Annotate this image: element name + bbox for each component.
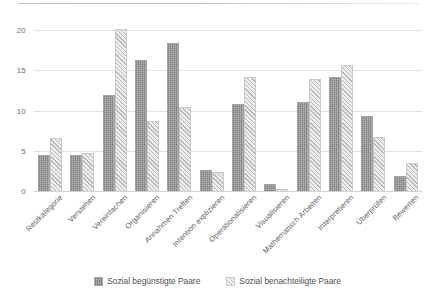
bar-group (34, 30, 66, 191)
bar-group (228, 30, 260, 191)
bar[interactable] (264, 184, 276, 191)
bar[interactable] (70, 155, 82, 191)
x-axis-category-label: Bewerten (391, 193, 421, 223)
scan-artifact-line (18, 3, 420, 4)
y-axis-tick-label: 10 (17, 106, 26, 115)
y-axis-tick-labels: 05101520 (0, 30, 30, 191)
bar-group (99, 30, 131, 191)
bar[interactable] (361, 116, 373, 191)
bar-group (66, 30, 98, 191)
bar[interactable] (244, 77, 256, 191)
y-axis-tick-label: 20 (17, 26, 26, 35)
x-axis-category-label: Verstehen (66, 193, 97, 224)
legend-item-series-1[interactable]: Sozial begünstigte Paare (94, 276, 200, 286)
bar-group (390, 30, 422, 191)
y-axis-tick-label: 0 (21, 187, 26, 196)
bar-group (293, 30, 325, 191)
x-axis-category-labels: RestkategorieVerstehenVereinfachenOrgani… (34, 191, 422, 261)
bar[interactable] (309, 79, 321, 191)
bar[interactable] (406, 163, 418, 191)
bar[interactable] (103, 95, 115, 191)
bar[interactable] (38, 155, 50, 191)
legend-item-label: Sozial begünstigte Paare (107, 276, 200, 286)
bar-group (325, 30, 357, 191)
bar[interactable] (394, 176, 406, 191)
bar[interactable] (341, 65, 353, 191)
bar[interactable] (135, 60, 147, 191)
bar[interactable] (373, 137, 385, 191)
chart-legend: Sozial begünstigte Paare Sozial benachte… (0, 276, 435, 286)
bar-group (163, 30, 195, 191)
bar-group (260, 30, 292, 191)
y-axis-tick-label: 15 (17, 66, 26, 75)
bar-group (357, 30, 389, 191)
bar-group (196, 30, 228, 191)
legend-swatch-icon (94, 277, 103, 286)
bar[interactable] (82, 153, 94, 191)
plot-area (34, 30, 422, 191)
bar[interactable] (115, 29, 127, 191)
bar[interactable] (179, 107, 191, 191)
bar-chart: 05101520 RestkategorieVerstehenVereinfac… (0, 0, 435, 300)
bar[interactable] (297, 102, 309, 191)
x-axis-category-label: Mathematisch Arbeiten (261, 193, 323, 255)
bar[interactable] (329, 77, 341, 191)
bar[interactable] (147, 121, 159, 191)
bar-groups (34, 30, 422, 191)
bar[interactable] (212, 172, 224, 191)
y-axis-tick-label: 5 (21, 146, 26, 155)
x-axis-category-label: Überprüfen (354, 193, 388, 227)
bar[interactable] (232, 104, 244, 191)
legend-swatch-icon (226, 277, 235, 286)
bar-group (131, 30, 163, 191)
legend-item-label: Sozial benachteiligte Paare (239, 276, 341, 286)
bar[interactable] (167, 43, 179, 191)
x-axis-category-label: Restkategorie (24, 193, 64, 233)
bar[interactable] (200, 170, 212, 191)
legend-item-series-2[interactable]: Sozial benachteiligte Paare (226, 276, 341, 286)
bar[interactable] (50, 138, 62, 191)
